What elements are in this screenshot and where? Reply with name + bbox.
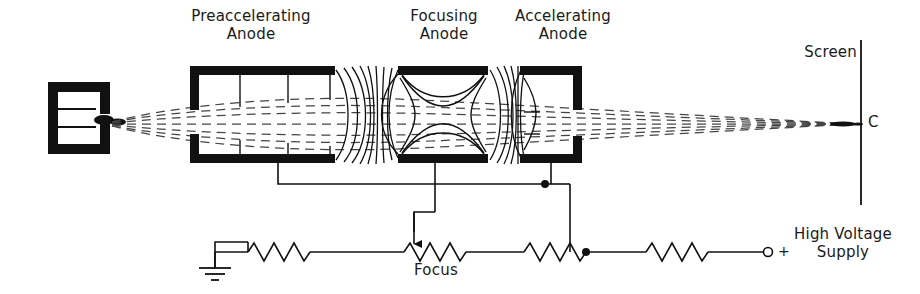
beam-focal-spot [830, 121, 863, 126]
accel-bus-node [541, 180, 549, 188]
label-preaccelerating-anode: Preaccelerating Anode [176, 8, 326, 43]
electrode-lead-wires [278, 163, 570, 252]
cathode-assembly [48, 82, 126, 154]
earth-ground-icon [199, 268, 231, 280]
accelerating-anode [520, 66, 582, 163]
divider-node [582, 248, 590, 256]
label-spot-c: C [868, 114, 892, 132]
crt-diagram: Preaccelerating Anode Focusing Anode Acc… [0, 0, 920, 294]
label-accelerating-anode: Accelerating Anode [500, 8, 626, 43]
label-high-voltage-supply: High Voltage Supply [772, 226, 914, 261]
label-focusing-anode: Focusing Anode [388, 8, 500, 43]
electron-beam-trajectories [112, 98, 856, 149]
label-screen: Screen [783, 44, 857, 62]
label-focus: Focus [388, 262, 484, 280]
voltage-divider-circuit [215, 242, 764, 268]
